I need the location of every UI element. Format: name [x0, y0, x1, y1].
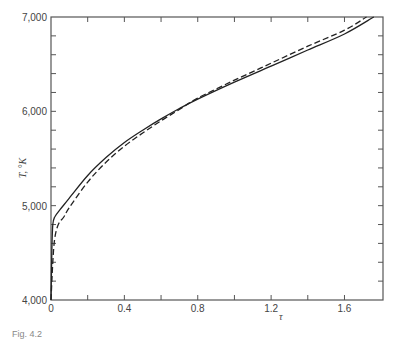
- plot-axes: [51, 17, 383, 300]
- axis-ticks: [51, 17, 383, 300]
- data-series: [51, 17, 374, 300]
- x-tick-label: 1.6: [338, 303, 352, 314]
- figure-caption: Fig. 4.2: [12, 329, 42, 339]
- dashed-curve: [51, 17, 367, 300]
- y-axis-label: T, °K: [17, 156, 28, 178]
- x-tick-label: 1.2: [264, 303, 278, 314]
- x-axis-label: τ: [279, 311, 283, 322]
- x-tick-label: 0: [48, 303, 54, 314]
- y-tick-label: 5,000: [22, 201, 47, 212]
- solid-curve: [51, 17, 374, 300]
- y-tick-label: 7,000: [22, 12, 47, 23]
- x-tick-label: 0.4: [117, 303, 131, 314]
- y-tick-label: 6,000: [22, 106, 47, 117]
- y-tick-label: 4,000: [22, 295, 47, 306]
- x-tick-label: 0.8: [191, 303, 205, 314]
- tick-labels: 00.40.81.21.64,0005,0006,0007,000: [22, 12, 352, 314]
- plot-frame: [51, 17, 383, 300]
